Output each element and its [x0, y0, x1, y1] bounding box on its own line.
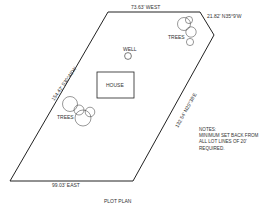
well-icon	[125, 53, 132, 60]
plot-plan-title: PLOT PLAN	[104, 198, 132, 204]
well-label: WELL	[123, 46, 137, 52]
notes-block: NOTES: MINIMUM SET BACK FROM ALL LOT LIN…	[199, 127, 258, 152]
plot-plan-drawing: 73.63' WEST 21.82' N35°9'W 154.42' S30°4…	[0, 0, 272, 213]
trees-northeast-label: TREES	[168, 34, 185, 40]
west-boundary-label: 154.42' S30°48'W	[50, 65, 78, 101]
northeast-boundary-label: 21.82' N35°9'W	[207, 13, 242, 19]
south-boundary-label: 99.03' EAST	[52, 182, 80, 188]
north-boundary-label: 73.63' WEST	[131, 4, 160, 10]
notes-line: REQUIRED.	[199, 146, 258, 152]
trees-northeast-icon	[178, 16, 197, 45]
trees-west-label: TREES	[57, 114, 74, 120]
east-boundary-label: 132.54' N29°38'E	[174, 91, 198, 128]
trees-west-icon	[63, 97, 95, 127]
house-label: HOUSE	[106, 82, 124, 88]
